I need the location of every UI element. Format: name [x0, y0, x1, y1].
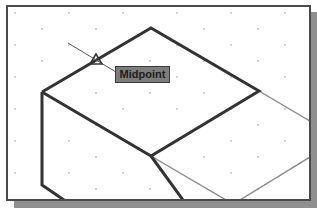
- midpoint-tooltip: Midpoint: [115, 66, 170, 83]
- drawing-canvas[interactable]: [0, 0, 317, 208]
- isometric-box-edges: [42, 28, 259, 200]
- cursor-line: [68, 43, 116, 72]
